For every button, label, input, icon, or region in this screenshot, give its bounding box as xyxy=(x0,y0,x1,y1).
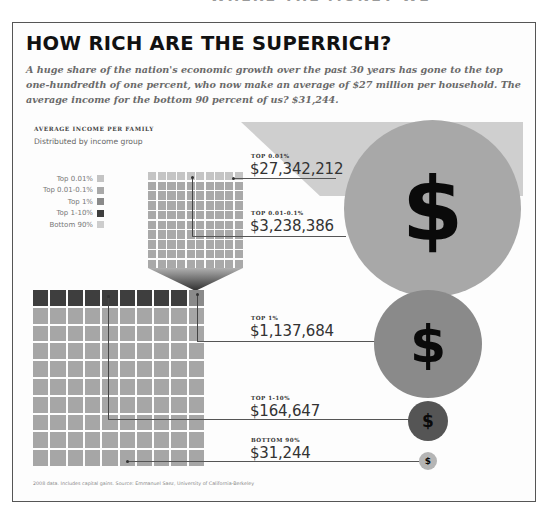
grid-cell xyxy=(167,221,175,229)
grid-cell xyxy=(68,379,83,395)
grid-cell xyxy=(85,361,100,377)
grid-cell xyxy=(206,201,214,209)
grid-cell xyxy=(68,343,83,359)
circle-top-0-01: $ xyxy=(344,120,521,297)
page-title: HOW RICH ARE THE SUPERRICH? xyxy=(26,32,392,55)
connector-line-top-0-01-0-1 xyxy=(192,236,346,237)
legend-swatch xyxy=(97,221,104,228)
grid-cell xyxy=(196,230,204,238)
dek-text: A huge share of the nation's economic gr… xyxy=(26,62,526,107)
grid-cell xyxy=(196,260,204,268)
grid-cell xyxy=(148,250,156,258)
connector-line-top-1-vertical xyxy=(197,294,198,341)
grid-cell xyxy=(206,182,214,190)
grid-cell xyxy=(154,343,169,359)
grid-cell xyxy=(148,260,156,268)
grid-cell xyxy=(148,172,156,180)
grid-cell xyxy=(68,432,83,448)
grid-cell xyxy=(225,191,233,199)
grid-cell xyxy=(225,211,233,219)
grid-cell xyxy=(171,308,186,324)
grid-cell xyxy=(215,211,223,219)
grid-cell xyxy=(167,260,175,268)
grid-cell xyxy=(235,230,243,238)
grid-cell xyxy=(50,379,65,395)
grid-cell xyxy=(189,343,204,359)
grid-cell xyxy=(177,172,185,180)
connector-line-top-0-01 xyxy=(234,178,336,179)
circle-top-1: $ xyxy=(374,290,482,398)
grid-cell xyxy=(137,432,152,448)
grid-cell xyxy=(33,415,48,431)
grid-cell xyxy=(206,260,214,268)
grid-cell xyxy=(154,432,169,448)
grid-cell xyxy=(171,397,186,413)
grid-cell xyxy=(235,221,243,229)
dollar-icon: $ xyxy=(410,318,446,370)
grid-cell xyxy=(33,326,48,342)
legend-label: Top 0.01% xyxy=(57,175,93,183)
grid-cell xyxy=(154,326,169,342)
chart-kicker: AVERAGE INCOME PER FAMILY xyxy=(34,126,154,132)
grid-cell xyxy=(206,230,214,238)
grid-cell xyxy=(206,250,214,258)
value-label-top-1-10: TOP 1-10% xyxy=(251,395,290,401)
grid-cell xyxy=(102,397,117,413)
grid-cell xyxy=(215,201,223,209)
grid-cell xyxy=(33,432,48,448)
connector-dot xyxy=(196,293,199,296)
value-amount-top-0-01: $27,342,212 xyxy=(250,160,343,178)
grid-cell xyxy=(137,397,152,413)
grid-cell xyxy=(85,450,100,466)
grid-cell xyxy=(148,230,156,238)
grid-cell xyxy=(148,221,156,229)
grid-cell xyxy=(137,343,152,359)
grid-cell xyxy=(189,379,204,395)
grid-cell xyxy=(120,308,135,324)
chart-subkicker: Distributed by income group xyxy=(34,137,143,146)
grid-cell xyxy=(85,290,100,306)
grid-cell xyxy=(120,415,135,431)
grid-cell xyxy=(167,172,175,180)
top-one-percent-grid xyxy=(148,172,243,268)
legend: Top 0.01% Top 0.01-0.1% Top 1% Top 1-10%… xyxy=(34,173,104,231)
grid-cell xyxy=(187,191,195,199)
grid-cell xyxy=(171,432,186,448)
grid-cell xyxy=(189,415,204,431)
grid-cell xyxy=(158,182,166,190)
grid-cell xyxy=(189,397,204,413)
grid-cell xyxy=(189,432,204,448)
legend-item-top-1-10: Top 1-10% xyxy=(34,208,104,219)
grid-cell xyxy=(85,308,100,324)
grid-cell xyxy=(196,191,204,199)
grid-cell xyxy=(68,450,83,466)
grid-cell xyxy=(68,361,83,377)
grid-cell xyxy=(120,397,135,413)
grid-cell xyxy=(167,201,175,209)
circle-top-1-10: $ xyxy=(408,401,448,441)
legend-swatch xyxy=(97,198,104,205)
legend-item-bottom-90: Bottom 90% xyxy=(34,219,104,230)
grid-cell xyxy=(102,450,117,466)
grid-cell xyxy=(235,211,243,219)
grid-cell xyxy=(177,182,185,190)
grid-cell xyxy=(154,290,169,306)
connector-dot xyxy=(107,295,110,298)
grid-cell xyxy=(50,432,65,448)
grid-cell xyxy=(187,211,195,219)
grid-cell xyxy=(68,326,83,342)
connector-line-top-1 xyxy=(197,341,377,342)
grid-cell xyxy=(177,260,185,268)
grid-cell xyxy=(177,230,185,238)
grid-cell xyxy=(187,260,195,268)
grid-cell xyxy=(158,250,166,258)
grid-cell xyxy=(50,326,65,342)
connector-dot xyxy=(126,460,129,463)
grid-cell xyxy=(189,361,204,377)
grid-cell xyxy=(68,397,83,413)
grid-cell xyxy=(158,172,166,180)
all-households-grid xyxy=(33,290,204,466)
value-label-top-0-01: TOP 0.01% xyxy=(251,153,290,159)
grid-cell xyxy=(206,172,214,180)
grid-cell xyxy=(33,361,48,377)
